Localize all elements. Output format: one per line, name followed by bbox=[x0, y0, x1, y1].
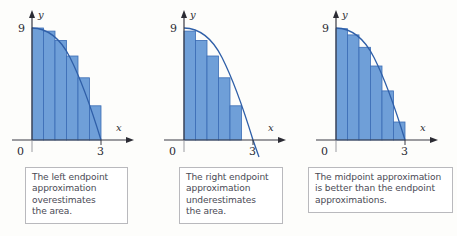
panel-right-endpoint: y x 9 0 3 The right endpoint approximati… bbox=[152, 0, 304, 236]
caption-line: approximations. bbox=[315, 195, 447, 206]
y-max-label: 9 bbox=[18, 22, 25, 35]
y-axis-label: y bbox=[189, 9, 196, 20]
riemann-bars-midpoint bbox=[336, 29, 405, 140]
x-axis-arrow bbox=[430, 137, 438, 143]
y-axis-label: y bbox=[37, 9, 44, 20]
left-endpoint-svg: y x 9 0 3 bbox=[0, 2, 152, 162]
caption-line: The midpoint approximation bbox=[315, 172, 447, 183]
caption-line: approximation bbox=[186, 183, 277, 194]
caption-line: is better than the endpoint bbox=[315, 183, 447, 194]
caption-line: The right endpoint bbox=[186, 172, 277, 183]
y-axis-label: y bbox=[341, 9, 348, 20]
plot-midpoint: y x 9 0 3 bbox=[304, 2, 457, 162]
caption-box-left-endpoint: The left endpoint approximation overesti… bbox=[25, 167, 128, 224]
x-axis-arrow bbox=[126, 137, 134, 143]
caption-box-right-endpoint: The right endpoint approximation underes… bbox=[179, 167, 283, 224]
panel-midpoint: y x 9 0 3 The midpoint approximation is … bbox=[304, 0, 457, 236]
origin-label: 0 bbox=[169, 145, 176, 158]
y-axis-arrow bbox=[333, 10, 339, 18]
three-panel-riemann-sum-figure: y x 9 0 3 The left endpoint approximatio… bbox=[0, 0, 457, 236]
caption-line: the area. bbox=[186, 206, 277, 217]
midpoint-svg: y x 9 0 3 bbox=[304, 2, 457, 162]
panel-left-endpoint: y x 9 0 3 The left endpoint approximatio… bbox=[0, 0, 152, 236]
riemann-bars-right bbox=[184, 31, 242, 140]
caption-box-midpoint: The midpoint approximation is better tha… bbox=[308, 167, 453, 213]
x-axis-label: x bbox=[116, 122, 122, 133]
plot-left-endpoint: y x 9 0 3 bbox=[0, 2, 152, 162]
x-max-label: 3 bbox=[97, 145, 104, 158]
x-axis-label: x bbox=[420, 122, 426, 133]
caption-line: the area. bbox=[32, 206, 122, 217]
x-max-label: 3 bbox=[249, 145, 256, 158]
x-axis-arrow bbox=[278, 137, 286, 143]
caption-line: overestimates bbox=[32, 195, 122, 206]
caption-line: The left endpoint bbox=[32, 172, 122, 183]
caption-line: approximation bbox=[32, 183, 122, 194]
x-axis-label: x bbox=[268, 122, 274, 133]
y-max-label: 9 bbox=[170, 22, 177, 35]
plot-right-endpoint: y x 9 0 3 bbox=[152, 2, 304, 162]
x-max-label: 3 bbox=[401, 145, 408, 158]
caption-line: underestimates bbox=[186, 195, 277, 206]
y-axis-arrow bbox=[29, 10, 35, 18]
y-axis-arrow bbox=[181, 10, 187, 18]
origin-label: 0 bbox=[321, 145, 328, 158]
right-endpoint-svg: y x 9 0 3 bbox=[152, 2, 304, 162]
origin-label: 0 bbox=[17, 145, 24, 158]
y-max-label: 9 bbox=[322, 22, 329, 35]
riemann-bars-left bbox=[32, 28, 101, 140]
